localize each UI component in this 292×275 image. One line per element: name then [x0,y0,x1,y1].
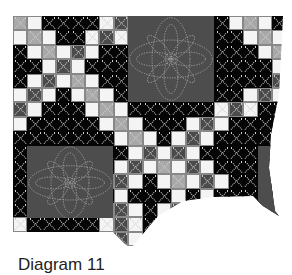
black-square [56,30,70,44]
light-square [214,174,228,188]
black-square [186,189,200,203]
light-square [27,45,41,59]
dark-gray-square [42,74,56,88]
black-square [214,217,228,231]
dark-gray-square [114,16,128,30]
black-square [272,16,286,30]
black-square [186,217,200,231]
black-square [229,131,243,145]
black-square [200,146,214,160]
light-square [128,146,142,160]
light-square [272,88,286,102]
black-square [229,45,243,59]
black-square [71,16,85,30]
dark-gray-square [114,232,128,246]
gray-square [13,16,27,30]
light-square [99,217,113,231]
light-square [114,189,128,203]
dark-gray-square [200,174,214,188]
gray-square [128,131,142,145]
black-square [229,74,243,88]
light-square [157,203,171,217]
light-square [13,30,27,44]
dark-gray-square [56,59,70,73]
black-square [272,217,286,231]
dark-gray-square [200,117,214,131]
black-square [13,131,27,145]
black-square [157,217,171,231]
black-square [214,131,228,145]
dark-gray-square [128,160,142,174]
black-square [272,232,286,246]
black-square [128,102,142,116]
light-square [214,203,228,217]
light-square [128,232,142,246]
dark-gray-square [171,146,185,160]
light-square [114,102,128,116]
light-square [99,232,113,246]
black-square [42,131,56,145]
light-square [99,117,113,131]
flower-block-bottom-left [27,146,113,218]
black-square [71,30,85,44]
light-square [171,160,185,174]
quilt-layout [13,16,283,248]
black-square [229,88,243,102]
light-square [13,117,27,131]
light-square [27,16,41,30]
black-square [42,117,56,131]
black-square [56,102,70,116]
flower-block-top-right [128,16,214,102]
black-square [272,189,286,203]
black-square [229,146,243,160]
black-square [13,189,27,203]
black-square [258,59,272,73]
light-square [56,45,70,59]
dark-gray-square [99,30,113,44]
black-square [229,232,243,246]
light-square [114,160,128,174]
black-square [258,217,272,231]
dark-gray-square [114,203,128,217]
light-square [143,131,157,145]
black-square [243,59,257,73]
gray-square [171,174,185,188]
black-square [13,45,27,59]
gray-square [272,45,286,59]
black-square [214,160,228,174]
black-square [171,117,185,131]
light-square [186,117,200,131]
light-square [114,30,128,44]
black-square [272,117,286,131]
black-square [143,174,157,188]
black-square [114,74,128,88]
flower-quilting-icon [27,146,113,218]
black-square [71,131,85,145]
black-square [71,232,85,246]
black-square [99,131,113,145]
light-square [85,102,99,116]
black-square [229,217,243,231]
black-square [114,88,128,102]
black-square [186,232,200,246]
dark-gray-square [171,203,185,217]
black-square [56,217,70,231]
black-square [27,131,41,145]
dark-gray-square [258,88,272,102]
flower-block-right-edge [258,146,283,218]
black-square [13,174,27,188]
dark-gray-square [186,160,200,174]
black-square [229,30,243,44]
light-square [85,30,99,44]
black-square [71,117,85,131]
black-square [85,117,99,131]
black-square [272,102,286,116]
dark-gray-square [229,203,243,217]
black-square [71,217,85,231]
black-square [200,203,214,217]
light-square [171,217,185,231]
gray-square [243,16,257,30]
black-square [171,102,185,116]
black-square [114,146,128,160]
black-square [143,232,157,246]
